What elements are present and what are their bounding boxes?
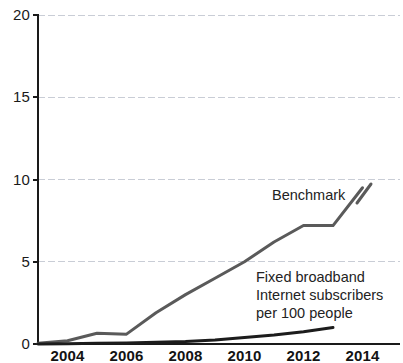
- annotation-text-line: Benchmark: [272, 186, 345, 204]
- line-chart: 05101520 200420062008201020122014 Benchm…: [0, 0, 403, 363]
- x-tick-label-2008: 2008: [156, 347, 216, 363]
- y-tick-label-15: 15: [13, 88, 30, 105]
- broadband-annotation: Fixed broadbandInternet subscribersper 1…: [256, 268, 383, 322]
- annotation-text-line: Internet subscribers: [256, 286, 383, 304]
- y-tick-label-5: 5: [21, 253, 30, 270]
- x-tick-label-2014: 2014: [333, 347, 393, 363]
- x-tick-label-2010: 2010: [215, 347, 275, 363]
- y-tick-label-0: 0: [21, 335, 30, 352]
- x-tick-label-2004: 2004: [38, 347, 98, 363]
- x-tick-label-2012: 2012: [274, 347, 334, 363]
- annotation-text-line: per 100 people: [256, 304, 383, 322]
- annotation-text-line: Fixed broadband: [256, 268, 383, 286]
- gridlines: [38, 15, 400, 262]
- x-tick-label-2006: 2006: [97, 347, 157, 363]
- y-tick-label-20: 20: [13, 6, 30, 23]
- y-tick-label-10: 10: [13, 171, 30, 188]
- benchmark-annotation: Benchmark: [272, 186, 345, 204]
